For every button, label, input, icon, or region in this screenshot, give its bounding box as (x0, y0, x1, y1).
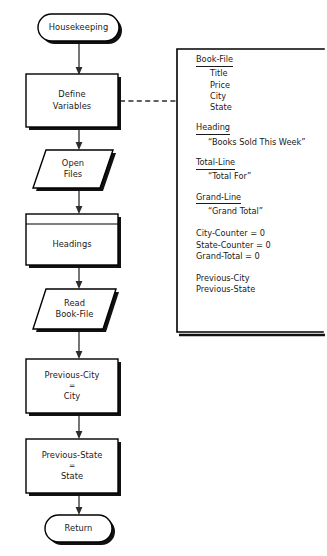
previous-var-item: Previous-City (196, 273, 324, 284)
node-read-book-file[interactable] (33, 289, 119, 332)
counter-item: State-Counter = 0 (196, 240, 324, 251)
annotation-group-heading: Heading “Books Sold This Week” (196, 122, 324, 148)
counter-item: City-Counter = 0 (196, 228, 324, 239)
heading-group-value: “Books Sold This Week” (196, 137, 324, 148)
node-define-variables[interactable] (26, 74, 121, 130)
spacer (196, 183, 324, 192)
spacer (196, 113, 324, 122)
heading-group-heading: Heading (196, 122, 230, 135)
annotation-group-total-line: Total-Line “Total For” (196, 157, 324, 183)
total-line-heading: Total-Line (196, 157, 235, 170)
flowchart-canvas: Housekeeping Define Variables Open Files… (0, 0, 327, 556)
spacer (196, 262, 324, 273)
node-previous-city[interactable] (26, 359, 121, 416)
connector-prevcity-to-prevstate (76, 416, 83, 439)
grand-line-value: “Grand Total” (196, 206, 324, 217)
node-open-files[interactable] (33, 150, 116, 191)
annotation-group-counters: City-Counter = 0 State-Counter = 0 Grand… (196, 228, 324, 262)
connector-headings-to-read (76, 268, 83, 289)
node-return[interactable] (45, 515, 115, 545)
connector-open-to-headings (76, 189, 83, 214)
connector-define-to-open (76, 130, 83, 150)
connector-start-to-define (76, 42, 83, 75)
annotation-panel: Book-File Title Price City State Heading… (196, 54, 324, 296)
connector-read-to-prevcity (76, 329, 83, 359)
spacer (196, 217, 324, 228)
annotation-group-book-file: Book-File Title Price City State (196, 54, 324, 113)
previous-var-item: Previous-State (196, 284, 324, 295)
grand-line-heading: Grand-Line (196, 192, 241, 205)
node-headings[interactable] (26, 214, 121, 268)
counter-item: Grand-Total = 0 (196, 251, 324, 262)
node-previous-state[interactable] (26, 439, 121, 496)
book-file-item: State (196, 102, 324, 113)
connector-prevstate-to-return (76, 496, 83, 515)
annotation-group-previous-vars: Previous-City Previous-State (196, 273, 324, 296)
annotation-group-grand-line: Grand-Line “Grand Total” (196, 192, 324, 218)
node-housekeeping[interactable] (38, 14, 122, 44)
spacer (196, 148, 324, 157)
book-file-item: Title (196, 68, 324, 79)
total-line-value: “Total For” (196, 171, 324, 182)
book-file-item: City (196, 91, 324, 102)
book-file-item: Price (196, 80, 324, 91)
book-file-heading: Book-File (196, 54, 233, 67)
